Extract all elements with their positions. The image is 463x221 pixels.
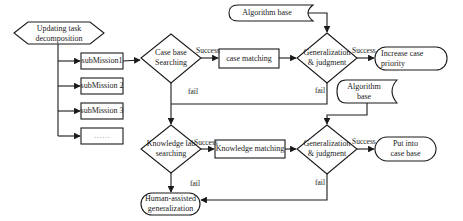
edge-label-gen1-success: Success (352, 46, 376, 56)
knowledge-search-node: Knowledge lab searching (141, 138, 201, 160)
start-node: Updating task decomposition (24, 23, 94, 44)
submission3-label: subMission 3 (81, 106, 124, 116)
case-matching-label: case matching (226, 54, 272, 64)
increase-priority-node: Increase case priority (375, 47, 441, 70)
generalization-2-line2: & judgment (308, 149, 346, 158)
generalization-1-line2: & judgment (308, 58, 346, 67)
edge-label-case-success: Success (196, 46, 220, 56)
edge-label-know-fail: fail (190, 179, 200, 189)
submission3-node: subMission 3 (81, 103, 123, 119)
edge-label-gen1-fail: fail (315, 86, 325, 96)
edge-algo2-gen2 (327, 103, 367, 124)
put-into-case-base-node: Put into case base (375, 137, 436, 161)
human-assisted-line2: generalization (148, 204, 193, 213)
case-search-line1: Case base (155, 48, 187, 57)
knowledge-matching-label: Knowledge matching (216, 144, 285, 154)
edge-label-know-success: Success (194, 138, 218, 148)
algorithm-base-2-node: Algorithm base (339, 80, 389, 103)
submission2-label: subMission 2 (81, 81, 124, 91)
submission2-node: subMission 2 (81, 78, 123, 94)
submission1-label: subMission1 (82, 56, 123, 66)
algorithm-base-2-line1: Algorithm (347, 82, 380, 91)
start-node-line1: Updating task (37, 24, 82, 33)
edge-label-case-fail: fail (188, 87, 198, 97)
start-node-line2: decomposition (35, 34, 82, 43)
knowledge-search-line2: searching (156, 149, 187, 158)
case-search-node: Case base Searching (146, 47, 196, 69)
case-search-line2: Searching (155, 58, 187, 67)
algorithm-base-2-line2: base (357, 92, 371, 101)
put-into-case-base-line2: case base (391, 149, 421, 158)
generalization-1-line1: Generalization (303, 48, 350, 57)
submission-more-node: …… (81, 128, 123, 144)
knowledge-matching-node: Knowledge matching (215, 140, 285, 158)
case-matching-node: case matching (219, 49, 279, 68)
algorithm-base-1-node: Algorithm base (231, 5, 303, 21)
human-assisted-node: Human-assisted generalization (141, 193, 200, 215)
knowledge-search-line1: Knowledge lab (147, 139, 196, 148)
human-assisted-line1: Human-assisted (145, 194, 196, 203)
increase-priority-line2: priority (381, 59, 405, 68)
increase-priority-line1: Increase case (381, 49, 423, 58)
edge-label-gen2-success: Success (352, 137, 376, 147)
algorithm-base-1-label: Algorithm base (242, 8, 292, 18)
edge-gen2-fail (201, 174, 327, 200)
submission-more-label: …… (94, 131, 110, 141)
put-into-case-base-line1: Put into (393, 139, 418, 148)
edge-sub1-case-search (123, 60, 140, 61)
generalization-1-node: Generalization & judgment (297, 47, 357, 69)
edge-label-gen2-fail: fail (315, 178, 325, 188)
edge-algo1-gen1 (308, 13, 327, 32)
generalization-2-line1: Generalization (303, 139, 350, 148)
generalization-2-node: Generalization & judgment (297, 138, 357, 160)
submission1-node: subMission1 (81, 53, 123, 69)
